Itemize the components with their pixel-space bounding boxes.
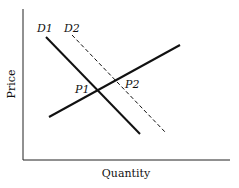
supply-demand-diagram: D1 D2 P1 P2 Price Quantity xyxy=(0,0,239,188)
p1-label: P1 xyxy=(74,83,89,96)
y-axis-label: Price xyxy=(5,70,18,99)
x-axis-label: Quantity xyxy=(102,167,151,180)
d1-label: D1 xyxy=(36,22,53,35)
p2-label: P2 xyxy=(124,78,139,91)
d2-label: D2 xyxy=(63,22,80,35)
supply-curve xyxy=(49,45,180,117)
